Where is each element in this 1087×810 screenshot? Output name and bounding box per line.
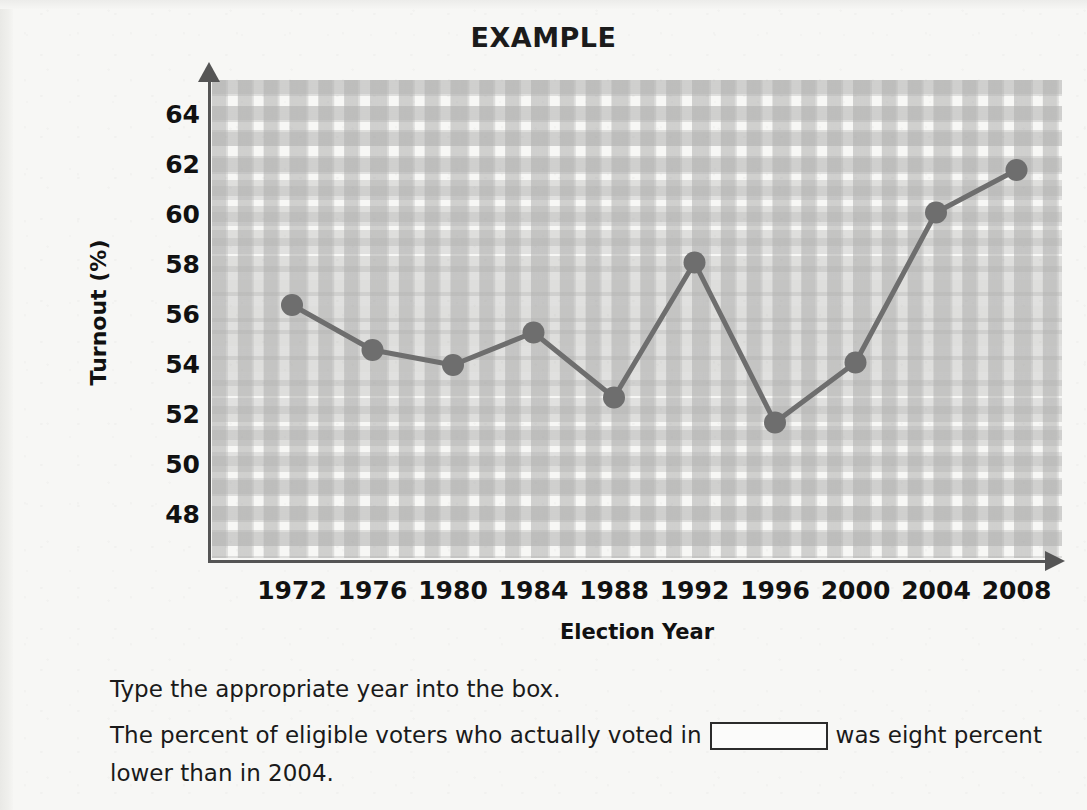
data-point-marker xyxy=(684,252,706,274)
data-point-marker xyxy=(764,412,786,434)
data-point-marker xyxy=(523,322,545,344)
turnout-series-markers xyxy=(281,159,1028,434)
instruction-text: Type the appropriate year into the box. xyxy=(110,676,560,702)
data-point-marker xyxy=(603,387,625,409)
data-point-marker xyxy=(1006,159,1028,181)
question-prompt-before: The percent of eligible voters who actua… xyxy=(110,722,702,748)
line-chart: EXAMPLE Turnout (%) Election Year 646260… xyxy=(0,0,1087,670)
data-point-marker xyxy=(281,294,303,316)
data-point-marker xyxy=(925,202,947,224)
data-point-marker xyxy=(442,354,464,376)
data-point-marker xyxy=(845,352,867,374)
turnout-series-line xyxy=(292,170,1017,423)
series-plot xyxy=(0,0,1087,670)
year-answer-input[interactable] xyxy=(710,722,828,750)
data-point-marker xyxy=(362,339,384,361)
question-block: Type the appropriate year into the box. … xyxy=(0,668,1087,810)
worksheet-page: EXAMPLE Turnout (%) Election Year 646260… xyxy=(0,0,1087,810)
question-text: The percent of eligible voters who actua… xyxy=(110,716,1060,792)
